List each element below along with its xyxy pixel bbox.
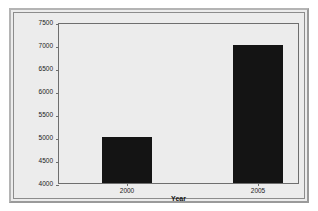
y-tick-label: 4000 [39,180,53,187]
y-tick-label: 5500 [39,111,53,118]
x-tick-mark [258,183,259,186]
x-tick-label: 2005 [234,187,282,194]
y-tick-mark [56,24,59,25]
y-tick-label: 5000 [39,134,53,141]
y-tick-mark [56,116,59,117]
bar-2005 [233,45,283,183]
y-tick-mark [56,70,59,71]
figure-outer-frame: Number of Adoptions from China 400045005… [9,8,309,203]
y-tick-label: 6000 [39,88,53,95]
y-tick-mark [56,93,59,94]
y-tick-mark [56,139,59,140]
plot-area [59,24,298,183]
y-tick-label: 7000 [39,42,53,49]
plot-frame: 40004500500055006000650070007500 2000200… [58,23,299,184]
x-axis-title: Year [58,195,299,202]
y-tick-label: 6500 [39,65,53,72]
y-tick-mark [56,47,59,48]
y-tick-mark [56,162,59,163]
y-tick-mark [56,185,59,186]
figure-inner-frame: Number of Adoptions from China 400045005… [13,12,305,199]
x-tick-label: 2000 [103,187,151,194]
y-tick-label: 4500 [39,157,53,164]
x-tick-mark [127,183,128,186]
y-tick-label: 7500 [39,19,53,26]
bar-2000 [102,137,152,183]
